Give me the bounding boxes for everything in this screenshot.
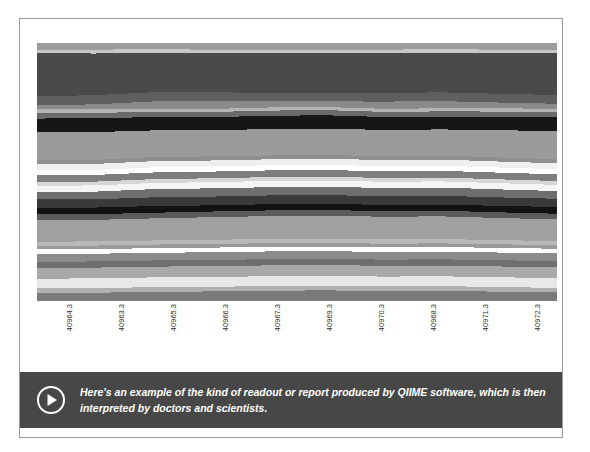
- x-tick-label: 40966.3: [221, 304, 230, 331]
- screenshot-root: 40964.340963.340965.340966.340967.340969…: [0, 0, 590, 452]
- area-band: [37, 216, 557, 242]
- figure-card: 40964.340963.340965.340966.340967.340969…: [19, 18, 563, 438]
- area-band: [37, 49, 557, 53]
- x-tick-label: 40968.3: [429, 304, 438, 331]
- area-band: [37, 53, 557, 97]
- x-tick-label: 40972.3: [533, 304, 542, 331]
- x-tick-label: 40967.3: [273, 304, 282, 331]
- x-tick-label: 40970.3: [377, 304, 386, 331]
- x-tick-label: 40965.3: [169, 304, 178, 331]
- x-tick-label: 40969.3: [325, 304, 334, 331]
- area-band: [37, 43, 557, 50]
- play-circle-icon[interactable]: [36, 385, 66, 415]
- stacked-area-chart: [37, 43, 557, 301]
- x-tick-label: 40964.3: [65, 304, 74, 331]
- chart-canvas: [37, 43, 557, 301]
- caption-text: Here's an example of the kind of readout…: [80, 384, 548, 416]
- x-axis-tick-labels: 40964.340963.340965.340966.340967.340969…: [37, 304, 557, 364]
- caption-bar: Here's an example of the kind of readout…: [20, 372, 562, 428]
- x-tick-label: 40971.3: [481, 304, 490, 331]
- x-tick-label: 40963.3: [117, 304, 126, 331]
